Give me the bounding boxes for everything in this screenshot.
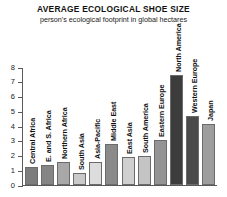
bar-slot: Japan [201, 68, 217, 185]
y-axis-tick-label: 0 [11, 181, 15, 190]
bar-slot: North America [169, 68, 185, 185]
bar-slot: E. and S. Africa [39, 68, 55, 185]
bar-category-label: South America [142, 103, 150, 153]
x-axis-line [22, 185, 217, 186]
bar-category-label: Western Europe [190, 59, 198, 113]
bar[interactable]: Central Africa [25, 167, 38, 185]
bar-category-label: E. and S. Africa [45, 110, 53, 162]
bar-category-label: South Asia [77, 134, 85, 171]
bar-category-label: Asia-Pacific [93, 118, 101, 158]
bar-slot: Middle East [104, 68, 120, 185]
y-axis-tick-label: 3 [11, 136, 15, 145]
bar[interactable]: Middle East [105, 144, 118, 185]
bar-slot: Eastern Europe [152, 68, 168, 185]
bar[interactable]: South America [138, 156, 151, 185]
bar-slot: South Asia [72, 68, 88, 185]
y-axis-tick: 0 [18, 186, 23, 187]
y-axis-tick-label: 7 [11, 77, 15, 86]
plot-area: 012345678 Central AfricaE. and S. Africa… [22, 68, 217, 186]
page-title: AVERAGE ECOLOGICAL SHOE SIZE [0, 4, 227, 14]
bar-slot: Northern Africa [55, 68, 71, 185]
bar-category-label: Japan [206, 100, 214, 121]
bar-series: Central AfricaE. and S. AfricaNorthern A… [23, 68, 217, 185]
bar-category-label: Middle East [109, 102, 117, 141]
y-axis-tick-label: 8 [11, 63, 15, 72]
bar[interactable]: Northern Africa [57, 162, 70, 185]
bar[interactable]: Western Europe [186, 116, 199, 185]
y-axis-tick-label: 1 [11, 166, 15, 175]
bar[interactable]: South Asia [73, 173, 86, 185]
bar[interactable]: E. and S. Africa [41, 165, 54, 185]
y-axis-tick-label: 6 [11, 92, 15, 101]
bar[interactable]: East Asia [122, 157, 135, 185]
bar-category-label: Eastern Europe [158, 84, 166, 136]
bar-slot: East Asia [120, 68, 136, 185]
bar-slot: Central Africa [23, 68, 39, 185]
bar[interactable]: Asia-Pacific [89, 162, 102, 185]
chart-title-block: AVERAGE ECOLOGICAL SHOE SIZE person's ec… [0, 4, 227, 25]
bar-category-label: Northern Africa [61, 107, 69, 159]
y-axis-tick-label: 4 [11, 122, 15, 131]
bar-slot: South America [136, 68, 152, 185]
bar-slot: Western Europe [185, 68, 201, 185]
y-axis-tick-label: 2 [11, 151, 15, 160]
bar-category-label: North America [174, 24, 182, 73]
bar-category-label: East Asia [126, 123, 134, 155]
bar[interactable]: North America [170, 75, 183, 185]
bar-slot: Asia-Pacific [88, 68, 104, 185]
bar[interactable]: Eastern Europe [154, 140, 167, 185]
bar[interactable]: Japan [202, 124, 215, 185]
bar-category-label: Central Africa [29, 118, 37, 164]
y-axis-tick-label: 5 [11, 107, 15, 116]
chart-subtitle: person's ecological footprint in global … [0, 15, 227, 25]
chart-figure: AVERAGE ECOLOGICAL SHOE SIZE person's ec… [0, 0, 227, 197]
